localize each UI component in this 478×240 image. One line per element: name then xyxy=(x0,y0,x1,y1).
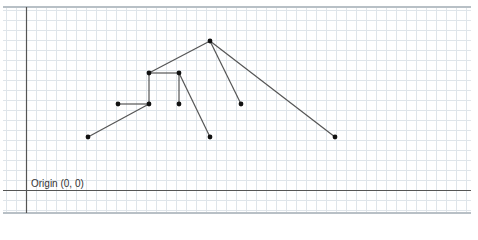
tree-edges xyxy=(88,41,335,137)
tree-edge xyxy=(179,73,210,137)
tree-nodes xyxy=(86,39,338,140)
tree-node xyxy=(147,71,152,76)
tree-edge xyxy=(149,41,210,73)
origin-label: Origin (0, 0) xyxy=(31,178,84,189)
tree-node xyxy=(147,102,152,107)
tree-node xyxy=(208,135,213,140)
tree-node xyxy=(239,102,244,107)
tree-node xyxy=(333,135,338,140)
tree-node xyxy=(208,39,213,44)
tree-node xyxy=(86,135,91,140)
tree-node xyxy=(177,71,182,76)
tree-node xyxy=(116,102,121,107)
tree-node xyxy=(177,102,182,107)
